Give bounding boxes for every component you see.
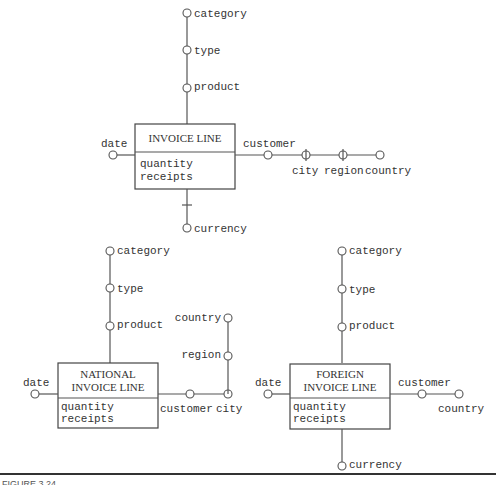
attr-customer-node [186,390,194,398]
attr-type: type [349,284,375,296]
attr-date: date [101,138,127,150]
measure-receipts: receipts [61,413,114,425]
attr-currency-node [338,462,346,470]
attr-country: country [438,403,485,415]
attr-date-node [31,390,39,398]
attr-country-node [224,314,232,322]
fact-title: INVOICE LINE [148,132,221,144]
measure-quantity: quantity [140,158,193,170]
measure-quantity: quantity [293,401,346,413]
attr-country-node [455,390,463,398]
measure-quantity: quantity [61,401,114,413]
attr-city: city [292,165,319,177]
attr-currency-node [183,224,191,232]
attr-date: date [255,377,281,389]
attr-country-node [376,151,384,159]
attr-product: product [117,319,163,331]
attr-date: date [23,377,49,389]
attr-currency: currency [194,223,247,235]
schema-invoice-line: category type product INVOICE LINE quant… [101,8,412,235]
attr-product: product [194,81,240,93]
attr-type-node [183,46,191,54]
attr-region: region [324,165,364,177]
fact-title-line1: NATIONAL [80,368,136,380]
attr-currency: currency [349,459,402,471]
attr-category: category [349,245,402,257]
attr-type-node [106,284,114,292]
attr-region-node [224,352,232,360]
attr-region: region [181,349,221,361]
attr-customer: customer [160,403,213,415]
attr-type-node [338,285,346,293]
schema-national-invoice-line: category type product NATIONAL INVOICE L… [23,245,243,428]
measure-receipts: receipts [140,171,193,183]
attr-category: category [194,8,247,20]
attr-country: country [175,312,222,324]
attr-product-node [106,322,114,330]
attr-product-node [183,84,191,92]
attr-category-node [183,9,191,17]
attr-category-node [106,247,114,255]
caption-rule [0,473,496,475]
attr-category-node [338,247,346,255]
attr-product-node [338,323,346,331]
attr-customer: customer [243,138,296,150]
attr-customer-node [418,390,426,398]
attr-type: type [117,283,143,295]
attr-date-node [109,151,117,159]
attr-country: country [365,165,412,177]
figure-caption: FIGURE 3.24 [2,477,56,485]
fact-title-line2: INVOICE LINE [303,381,376,393]
attr-type: type [194,45,220,57]
attr-product: product [349,320,395,332]
fact-title-line1: FOREIGN [316,368,364,380]
attr-city: city [216,403,243,415]
attr-customer: customer [398,377,451,389]
attr-customer-node [264,151,272,159]
schema-foreign-invoice-line: category type product FOREIGN INVOICE LI… [255,245,485,471]
dfm-diagram: category type product INVOICE LINE quant… [0,0,496,485]
attr-category: category [117,245,170,257]
fact-title-line2: INVOICE LINE [71,381,144,393]
attr-date-node [264,390,272,398]
measure-receipts: receipts [293,413,346,425]
